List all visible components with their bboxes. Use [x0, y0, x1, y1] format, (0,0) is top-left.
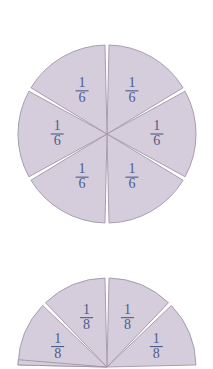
figure-background — [0, 0, 213, 369]
fraction-diagram-canvas: 16161616161618181818 — [0, 0, 213, 369]
fraction-figure: 16161616161618181818 — [0, 0, 213, 369]
